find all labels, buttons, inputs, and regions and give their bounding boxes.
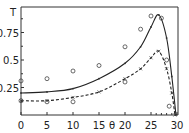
data-point (97, 64, 101, 68)
data-point (165, 58, 169, 62)
axis-labels: 0510152025300.250.50.75Tθ (0, 7, 183, 131)
x-tick-label: 30 (171, 120, 184, 131)
data-point (71, 69, 75, 73)
chart-svg: 0510152025300.250.50.75Tθ (0, 0, 189, 133)
dot-marker (166, 37, 168, 39)
data-point (139, 27, 143, 31)
series-group (19, 14, 177, 117)
x-tick-label: 25 (145, 120, 158, 131)
dot-marker (171, 76, 173, 78)
x-tick-label: 10 (67, 120, 80, 131)
y-tick-label: 0.75 (0, 28, 19, 39)
x-tick-label: 0 (18, 120, 24, 131)
y-axis-label: T (9, 7, 17, 18)
data-point (45, 77, 49, 81)
x-tick-label: 15 (93, 120, 106, 131)
dashed-curve (21, 51, 175, 115)
dot-marker (72, 88, 74, 90)
plot-frame (21, 7, 178, 115)
solid-curve (21, 15, 176, 115)
x-tick-label: 5 (44, 120, 50, 131)
cross-marker (139, 67, 142, 70)
dot-marker (98, 78, 100, 80)
x-axis-label: θ (109, 120, 115, 131)
y-tick-label: 0.25 (0, 83, 19, 94)
dot-marker (150, 26, 152, 28)
data-point (167, 104, 171, 108)
dot-marker (140, 46, 142, 48)
x-tick-label: 20 (119, 120, 132, 131)
dot-marker (46, 91, 48, 93)
data-point (71, 100, 75, 104)
dot-marker (20, 92, 22, 94)
y-tick-label: 0.5 (3, 55, 19, 66)
data-point (123, 80, 127, 84)
dot-marker (158, 14, 160, 16)
data-point (123, 45, 127, 49)
axis-ticks (21, 19, 177, 115)
dot-marker (124, 62, 126, 64)
data-point (149, 14, 153, 18)
cross-marker (150, 56, 153, 59)
